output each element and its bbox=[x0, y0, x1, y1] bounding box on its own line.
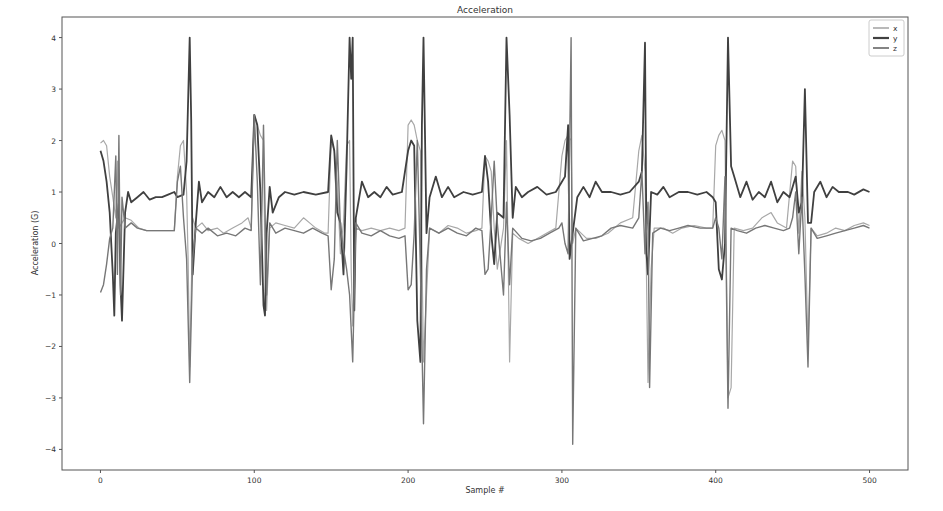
y-tick-label: 4 bbox=[51, 34, 56, 43]
y-tick-label: 2 bbox=[51, 137, 56, 146]
x-tick-label: 500 bbox=[862, 476, 877, 485]
x-axis-label: Sample # bbox=[465, 486, 505, 495]
y-tick-label: −2 bbox=[45, 342, 56, 351]
y-tick-label: 3 bbox=[51, 85, 56, 94]
legend-label-x: x bbox=[893, 24, 898, 33]
chart-title: Acceleration bbox=[457, 5, 513, 15]
x-tick-label: 400 bbox=[709, 476, 724, 485]
acceleration-figure: Acceleration −4−3−2−101234 0100200300400… bbox=[0, 0, 943, 511]
legend-label-y: y bbox=[893, 34, 898, 43]
legend-label-z: z bbox=[893, 44, 897, 53]
line-chart: Acceleration −4−3−2−101234 0100200300400… bbox=[0, 0, 943, 511]
y-axis-label: Acceleration (G) bbox=[31, 211, 40, 276]
y-tick-label: −1 bbox=[45, 291, 56, 300]
y-tick-label: −4 bbox=[45, 445, 56, 454]
x-tick-label: 0 bbox=[98, 476, 103, 485]
legend: xyz bbox=[869, 20, 904, 56]
x-tick-label: 200 bbox=[401, 476, 416, 485]
y-tick-label: 1 bbox=[51, 188, 56, 197]
y-tick-label: −3 bbox=[45, 394, 56, 403]
y-tick-label: 0 bbox=[51, 240, 56, 249]
x-tick-label: 300 bbox=[555, 476, 570, 485]
x-tick-label: 100 bbox=[247, 476, 262, 485]
